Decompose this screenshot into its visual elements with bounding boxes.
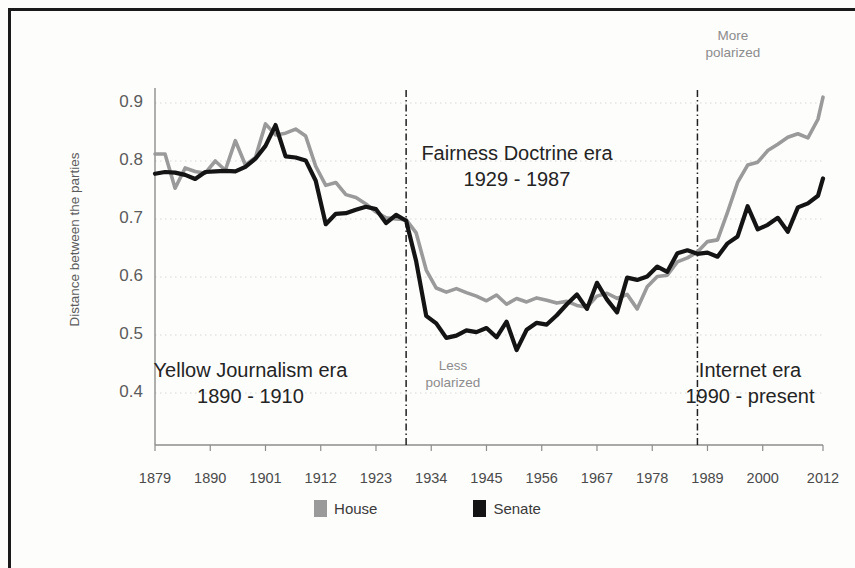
x-tick-label: 1945: [456, 470, 516, 486]
x-tick-label: 2012: [793, 470, 853, 486]
x-tick-label: 1923: [346, 470, 406, 486]
annotation-internet-line1: Internet era: [699, 359, 801, 381]
legend-item-senate[interactable]: Senate: [473, 500, 541, 517]
annotation-less-polarized-line2: polarized: [398, 375, 508, 392]
legend-item-house[interactable]: House: [314, 500, 377, 517]
axis-ticks: [155, 445, 823, 451]
figure-page: Distance between the parties 0.40.50.60.…: [0, 0, 855, 568]
y-axis-title: Distance between the parties: [67, 120, 82, 360]
y-tick-label: 0.5: [99, 324, 143, 344]
x-tick-label: 1956: [512, 470, 572, 486]
annotation-more-polarized-line2: polarized: [673, 45, 793, 62]
x-tick-label: 1890: [180, 470, 240, 486]
annotation-more-polarized: More polarized: [673, 28, 793, 62]
x-tick-label: 1967: [567, 470, 627, 486]
legend-label-senate: Senate: [493, 500, 541, 517]
annotation-fairness-doctrine-era: Fairness Doctrine era 1929 - 1987: [392, 140, 642, 193]
x-tick-label: 2000: [733, 470, 793, 486]
y-tick-label: 0.8: [99, 150, 143, 170]
annotation-fairness-doctrine-line1: Fairness Doctrine era: [421, 142, 612, 164]
polarization-line-chart: Distance between the parties 0.40.50.60.…: [0, 0, 855, 568]
x-tick-label: 1978: [622, 470, 682, 486]
x-tick-label: 1901: [235, 470, 295, 486]
x-tick-label: 1879: [125, 470, 185, 486]
x-tick-label: 1912: [291, 470, 351, 486]
y-tick-label: 0.6: [99, 266, 143, 286]
x-tick-label: 1989: [677, 470, 737, 486]
legend-swatch-senate-icon: [473, 500, 486, 517]
legend-swatch-house-icon: [314, 500, 327, 517]
chart-legend: House Senate: [0, 500, 855, 517]
annotation-more-polarized-line1: More: [718, 28, 749, 43]
annotation-yellow-journalism-line1: Yellow Journalism era: [154, 359, 348, 381]
annotation-fairness-doctrine-line2: 1929 - 1987: [392, 166, 642, 192]
annotation-less-polarized-line1: Less: [439, 358, 468, 373]
annotation-yellow-journalism-line2: 1890 - 1910: [118, 383, 383, 409]
annotation-yellow-journalism-era: Yellow Journalism era 1890 - 1910: [118, 357, 383, 410]
y-tick-label: 0.7: [99, 208, 143, 228]
annotation-internet-line2: 1990 - present: [655, 383, 845, 409]
y-tick-label: 0.9: [99, 92, 143, 112]
x-tick-label: 1934: [401, 470, 461, 486]
legend-label-house: House: [334, 500, 377, 517]
annotation-less-polarized: Less polarized: [398, 358, 508, 392]
annotation-internet-era: Internet era 1990 - present: [655, 357, 845, 410]
data-series-group: [155, 97, 823, 350]
